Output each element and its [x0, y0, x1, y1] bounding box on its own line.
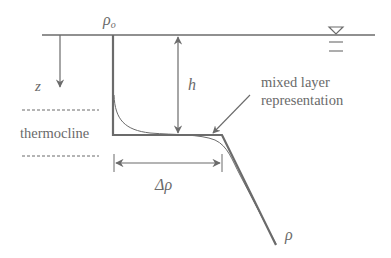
surface-density-label: ρo	[102, 11, 116, 30]
mixed-layer-profile	[113, 35, 276, 245]
depth-label: z	[34, 78, 41, 94]
annotation-text-line2: representation	[261, 92, 344, 108]
density-axis-label: ρ	[284, 226, 293, 244]
density-jump-label: Δρ	[154, 176, 172, 194]
thermocline-label: thermocline	[20, 125, 89, 141]
smooth-density-profile	[114, 95, 276, 244]
mixed-layer-depth-label: h	[188, 76, 196, 93]
annotation-text-line1: mixed layer	[261, 74, 330, 90]
annotation-arrow	[213, 95, 250, 133]
diagram-canvas: z thermocline ρo h Δρ mixed layer repres…	[0, 0, 391, 258]
water-level-icon	[329, 27, 343, 51]
